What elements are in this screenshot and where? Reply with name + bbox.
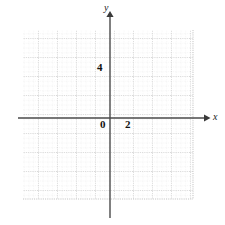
- coordinate-plane-figure: y x 0 2 4: [0, 0, 225, 225]
- y-axis-label: y: [104, 3, 108, 13]
- plot-svg: [0, 0, 225, 225]
- x-axis-label: x: [213, 112, 217, 122]
- y-tick-label-4: 4: [97, 62, 103, 73]
- x-tick-label-2: 2: [125, 119, 131, 130]
- origin-tick-label: 0: [100, 119, 106, 130]
- grid-field: [23, 30, 193, 199]
